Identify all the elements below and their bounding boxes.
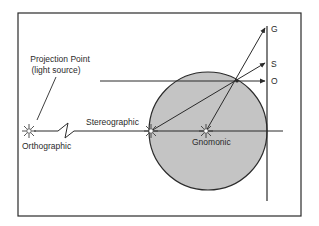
stereographic-light-source-icon — [144, 124, 158, 138]
point-g-label: G — [271, 24, 278, 34]
point-s-label: S — [271, 59, 277, 69]
orthographic-label: Orthographic — [22, 141, 72, 151]
leader-line — [37, 77, 56, 120]
projection-point-label: Projection Point — [30, 54, 90, 64]
surface-point — [235, 79, 238, 82]
map-projection-diagram: Projection Point (light source) Orthogra… — [0, 0, 319, 226]
gnomonic-label: Gnomonic — [192, 137, 231, 147]
light-source-label: (light source) — [31, 65, 80, 75]
orthographic-light-source-icon — [22, 124, 36, 138]
point-o-label: O — [271, 76, 278, 86]
gnomonic-light-source-icon — [199, 124, 213, 138]
stereographic-label: Stereographic — [86, 117, 140, 127]
